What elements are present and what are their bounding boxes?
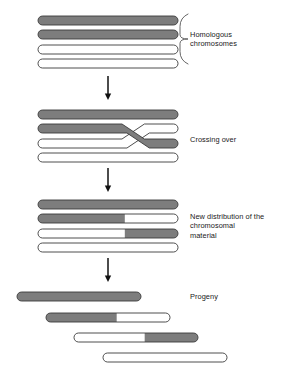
chromosome-segment-gray [145,333,199,342]
stage-label-homologous-chromosomes: Homologous chromosomes [190,30,237,49]
stage-label-new-distribution: New distribution of the chromosomal mate… [190,212,264,240]
arrow-1 [105,76,111,100]
chromosome-segment-gray [38,200,178,209]
arrow-3 [105,258,111,282]
chromosome-segment-gray [125,229,179,238]
stage-label-progeny: Progeny [190,292,218,301]
stage-new-distribution [38,200,178,252]
chromosome-segment-gray [17,292,141,301]
stage-crossing-over [38,110,178,162]
stage-progeny [17,292,227,362]
chromosome-segment-white [38,153,178,162]
chromosome-segment-white [74,333,145,342]
arrow-head [105,186,111,193]
diagram-canvas [0,0,295,378]
chromosome-segment-gray [38,30,178,39]
chromosome-segment-gray [38,16,178,25]
chromosome-segment-white [38,229,125,238]
arrow-head [105,94,111,101]
chromosome-segment-white [38,243,178,252]
stage-homologous-chromosomes [38,14,188,68]
homologous-brace [180,14,188,64]
chromosome-segment-white [125,214,179,223]
arrow-2 [105,168,111,192]
chromosome-segment-gray [38,110,178,119]
chromosome-segment-white [103,353,227,362]
arrow-head [105,276,111,283]
chromosome-crossing-over-diagram: Homologous chromosomesCrossing overNew d… [0,0,295,378]
chromosome-segment-white [117,313,171,322]
chromosome-segment-white [38,45,178,54]
chromosome-segment-gray [38,214,125,223]
stage-label-crossing-over: Crossing over [190,135,236,144]
chromosome-segment-white [38,59,178,68]
chromosome-segment-gray [46,313,117,322]
